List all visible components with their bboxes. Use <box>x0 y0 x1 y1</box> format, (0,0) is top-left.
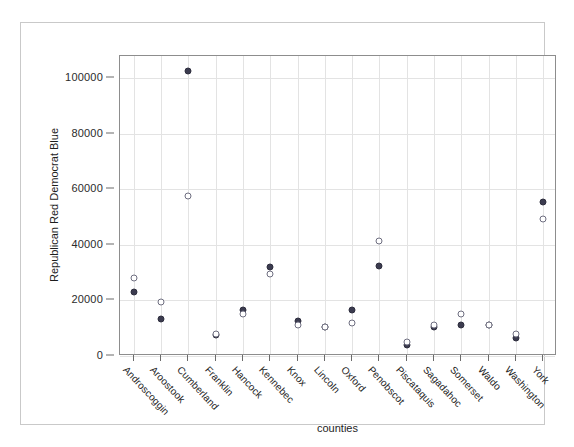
data-point <box>267 264 274 271</box>
x-tick-mark <box>160 355 161 361</box>
y-tick-mark <box>106 77 114 78</box>
y-tick-mark <box>106 188 114 189</box>
data-point <box>212 331 219 338</box>
x-tick-mark <box>215 355 216 361</box>
x-tick-mark <box>460 355 461 361</box>
x-axis-title: counties <box>119 422 556 434</box>
data-point <box>294 322 301 329</box>
x-tick-mark <box>297 355 298 361</box>
x-tick-label-york: York <box>530 364 552 386</box>
y-tick-label: 40000 <box>71 238 103 250</box>
y-tick-label: 0 <box>97 349 103 361</box>
y-tick-label: 100000 <box>65 71 103 83</box>
x-tick-label-oxford: Oxford <box>339 364 368 394</box>
data-point <box>267 271 274 278</box>
y-tick-mark <box>106 132 114 133</box>
y-tick-mark <box>106 299 114 300</box>
x-tick-mark <box>351 355 352 361</box>
y-tick-label: 20000 <box>71 293 103 305</box>
y-tick-mark <box>106 355 114 356</box>
y-tick-label: 80000 <box>71 127 103 139</box>
x-tick-mark <box>406 355 407 361</box>
x-tick-mark <box>488 355 489 361</box>
data-point <box>157 298 164 305</box>
x-tick-label-knox: Knox <box>284 364 308 388</box>
x-tick-mark <box>269 355 270 361</box>
data-point <box>185 68 192 75</box>
data-points-layer <box>120 56 555 354</box>
data-point <box>485 322 492 329</box>
data-point <box>157 315 164 322</box>
y-tick-label: 60000 <box>71 182 103 194</box>
data-point <box>376 262 383 269</box>
x-tick-mark <box>542 355 543 361</box>
x-tick-mark <box>324 355 325 361</box>
x-tick-mark <box>242 355 243 361</box>
plot-area <box>119 55 556 355</box>
data-point <box>458 322 465 329</box>
data-point <box>376 237 383 244</box>
x-tick-mark <box>133 355 134 361</box>
figure-frame: Republican Red Democrat Blue 02000040000… <box>20 22 545 425</box>
data-point <box>458 311 465 318</box>
data-point <box>431 322 438 329</box>
y-axis-ticks: 020000400006000080000100000 <box>21 23 119 355</box>
data-point <box>239 311 246 318</box>
data-point <box>540 198 547 205</box>
data-point <box>540 215 547 222</box>
y-tick-mark <box>106 243 114 244</box>
x-tick-mark <box>187 355 188 361</box>
data-point <box>185 193 192 200</box>
data-point <box>403 339 410 346</box>
x-tick-label-waldo: Waldo <box>476 364 503 392</box>
x-tick-mark <box>378 355 379 361</box>
x-tick-label-lincoln: Lincoln <box>312 364 342 395</box>
data-point <box>130 275 137 282</box>
data-point <box>130 289 137 296</box>
data-point <box>349 307 356 314</box>
x-tick-mark <box>515 355 516 361</box>
x-tick-mark <box>433 355 434 361</box>
data-point <box>513 330 520 337</box>
data-point <box>321 323 328 330</box>
data-point <box>349 319 356 326</box>
